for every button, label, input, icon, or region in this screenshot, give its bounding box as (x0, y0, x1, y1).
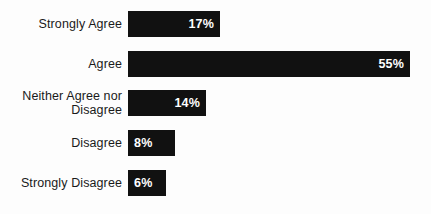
category-label: Disagree (0, 136, 128, 150)
bar[interactable]: 17% (128, 11, 220, 37)
horizontal-bar-chart: Strongly Agree 17% Agree 55% Neither Agr… (0, 0, 431, 214)
chart-row: Disagree 8% (0, 123, 431, 163)
bar[interactable]: 8% (128, 130, 175, 156)
chart-row: Strongly Disagree 6% (0, 163, 431, 203)
chart-row: Neither Agree nor Disagree 14% (0, 83, 431, 123)
category-label: Strongly Agree (0, 17, 128, 31)
category-label: Neither Agree nor Disagree (0, 89, 128, 117)
bar-track: 6% (128, 170, 431, 196)
bar-track: 55% (128, 51, 431, 77)
bar-value-label: 17% (188, 17, 214, 31)
bar-value-label: 8% (134, 136, 152, 150)
bar[interactable]: 6% (128, 170, 166, 196)
bar-track: 14% (128, 90, 431, 116)
chart-row: Strongly Agree 17% (0, 4, 431, 44)
bar[interactable]: 14% (128, 90, 206, 116)
chart-row: Agree 55% (0, 44, 431, 84)
bar[interactable]: 55% (128, 51, 410, 77)
bar-value-label: 55% (378, 57, 404, 71)
bar-value-label: 6% (134, 176, 152, 190)
bar-track: 17% (128, 11, 431, 37)
category-label: Agree (0, 57, 128, 71)
category-label: Strongly Disagree (0, 176, 128, 190)
bar-track: 8% (128, 130, 431, 156)
bar-value-label: 14% (174, 96, 200, 110)
